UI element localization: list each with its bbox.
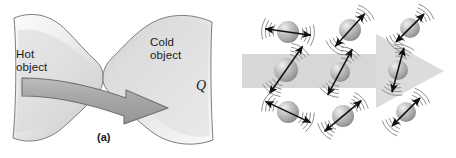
physics-figure: Hot object Cold object Q (a) xyxy=(0,0,456,158)
panel-b: (b) xyxy=(228,0,456,158)
molecule xyxy=(318,93,368,140)
molecule xyxy=(326,5,374,55)
molecule xyxy=(262,92,315,131)
panel-a: Hot object Cold object Q (a) xyxy=(0,0,228,158)
molecule xyxy=(261,18,314,45)
